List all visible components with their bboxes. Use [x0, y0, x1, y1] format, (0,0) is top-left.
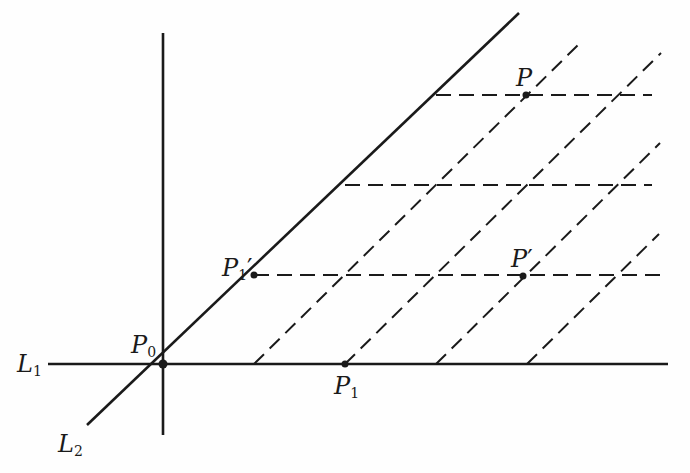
dashed-diagonal-1: [254, 45, 578, 364]
label-P: P: [516, 66, 532, 90]
point-P1: [342, 361, 349, 368]
label-P0: P0: [131, 333, 156, 359]
label-L1: L1: [17, 352, 42, 378]
label-P-prime: P′: [511, 247, 533, 271]
label-L2: L2: [58, 432, 83, 458]
point-P0: [159, 360, 168, 369]
dashed-diagonal-3: [436, 143, 660, 364]
point-P: [523, 92, 530, 99]
label-P1-prime: P1′: [222, 256, 253, 282]
label-P1: P1: [334, 374, 359, 400]
point-P-prime: [520, 273, 527, 280]
lattice-diagram: [0, 0, 690, 473]
dashed-diagonal-2: [345, 53, 661, 364]
diagram-canvas: L1 L2 P0 P1 P1′ P P′: [0, 0, 690, 473]
